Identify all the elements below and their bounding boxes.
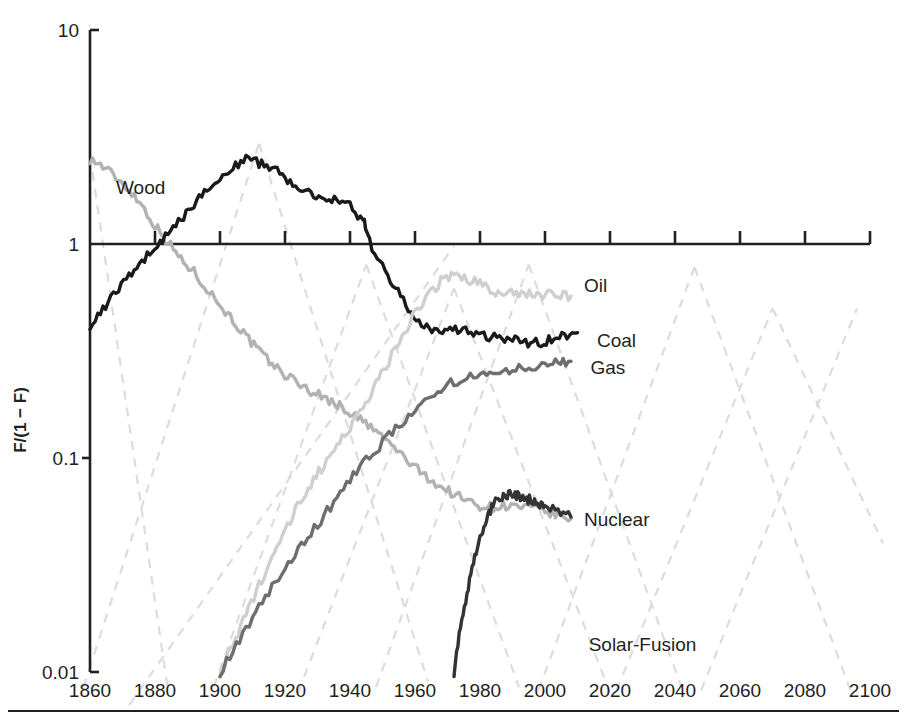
annotation-solar-fusion: Solar-Fusion bbox=[589, 634, 697, 655]
x-tick-label: 1860 bbox=[69, 680, 111, 701]
y-tick-label: 10 bbox=[58, 20, 79, 41]
series-label-nuclear: Nuclear bbox=[584, 509, 650, 530]
series-labels: WoodCoalOilGasNuclear bbox=[116, 177, 650, 530]
series-label-coal: Coal bbox=[597, 330, 636, 351]
series-line-nuclear[interactable] bbox=[454, 491, 571, 677]
x-tick-label: 1880 bbox=[134, 680, 176, 701]
y-axis-title: F/(1 − F) bbox=[11, 387, 30, 453]
series-label-gas: Gas bbox=[591, 357, 626, 378]
annotations: Solar-Fusion bbox=[589, 634, 697, 655]
series-label-wood: Wood bbox=[116, 177, 165, 198]
series-line-wood[interactable] bbox=[90, 158, 571, 521]
axes bbox=[82, 30, 870, 672]
x-tick-label: 2020 bbox=[589, 680, 631, 701]
x-tick-label: 1980 bbox=[459, 680, 501, 701]
reference-line bbox=[454, 288, 610, 692]
reference-lines bbox=[84, 143, 884, 705]
series-line-oil[interactable] bbox=[220, 273, 571, 677]
reference-line bbox=[695, 267, 851, 690]
reference-line bbox=[529, 265, 682, 687]
reference-line bbox=[701, 308, 857, 690]
reference-line bbox=[366, 265, 519, 687]
x-tick-labels: 1860188019001920194019601980200020202040… bbox=[69, 680, 891, 701]
x-tick-label: 2060 bbox=[719, 680, 761, 701]
reference-line bbox=[617, 308, 773, 690]
x-tick-label: 1940 bbox=[329, 680, 371, 701]
x-tick-label: 2000 bbox=[524, 680, 566, 701]
reference-line bbox=[84, 143, 260, 687]
x-tick-label: 2040 bbox=[654, 680, 696, 701]
x-tick-label: 1960 bbox=[394, 680, 436, 701]
y-tick-label: 0.1 bbox=[53, 448, 79, 469]
series-label-oil: Oil bbox=[584, 275, 607, 296]
substitution-chart: 1010.10.01F/(1 − F)186018801900192019401… bbox=[0, 0, 907, 720]
series-line-gas[interactable] bbox=[220, 359, 571, 677]
x-tick-label: 1900 bbox=[199, 680, 241, 701]
reference-line bbox=[129, 246, 454, 705]
reference-line bbox=[773, 308, 884, 543]
x-tick-label: 2080 bbox=[784, 680, 826, 701]
reference-line bbox=[298, 288, 454, 692]
x-tick-label: 1920 bbox=[264, 680, 306, 701]
chart-figure: 1010.10.01F/(1 − F)186018801900192019401… bbox=[0, 0, 907, 720]
y-tick-label: 1 bbox=[68, 234, 79, 255]
x-ticks bbox=[155, 231, 870, 244]
x-tick-label: 2100 bbox=[849, 680, 891, 701]
y-tick-labels: 1010.10.01 bbox=[42, 20, 79, 683]
